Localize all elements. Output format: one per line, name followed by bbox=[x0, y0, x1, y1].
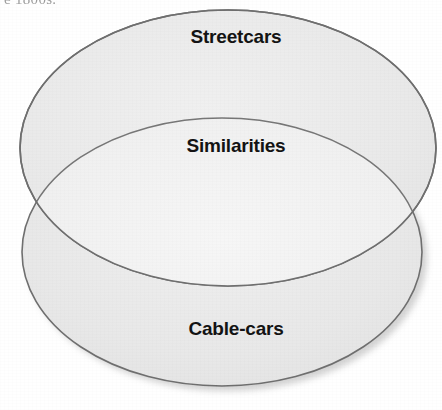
venn-diagram-page: e 1800s. bbox=[0, 0, 442, 410]
label-streetcars: Streetcars bbox=[191, 26, 282, 48]
label-similarities: Similarities bbox=[187, 135, 286, 157]
venn-diagram-graphic bbox=[0, 0, 442, 410]
label-cable-cars: Cable-cars bbox=[188, 318, 283, 340]
